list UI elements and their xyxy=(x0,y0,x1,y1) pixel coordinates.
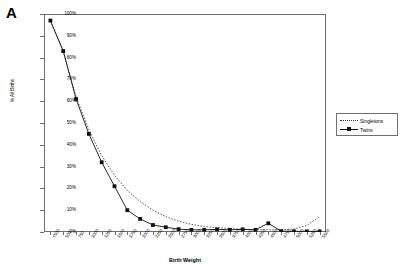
data-point-marker xyxy=(318,229,322,232)
data-point-marker xyxy=(279,229,283,232)
data-point-marker xyxy=(125,208,129,212)
data-point-marker xyxy=(305,229,309,232)
data-point-marker xyxy=(241,227,245,231)
x-axis-title: Birth Weight xyxy=(44,257,326,263)
data-point-marker xyxy=(254,228,258,232)
data-point-marker xyxy=(177,227,181,231)
data-point-marker xyxy=(228,228,232,232)
y-axis-title: % All Births xyxy=(10,51,15,131)
legend-label-singletons: Singletons xyxy=(360,118,383,124)
legend-key-solid-square-icon xyxy=(340,126,358,134)
panel-label: A xyxy=(6,4,17,21)
data-point-marker xyxy=(49,19,53,23)
data-point-marker xyxy=(266,221,270,225)
data-point-marker xyxy=(100,160,104,164)
series-layer xyxy=(44,14,326,232)
data-point-marker xyxy=(113,184,117,188)
data-point-marker xyxy=(190,228,194,232)
legend-item-singletons[interactable]: Singletons xyxy=(340,116,394,125)
data-point-marker xyxy=(138,217,142,221)
y-tick-mark xyxy=(40,232,44,233)
legend-item-twins[interactable]: Twins xyxy=(340,125,394,134)
data-point-marker xyxy=(164,225,168,229)
legend-key-dotted-icon xyxy=(340,117,358,125)
data-point-marker xyxy=(292,229,296,232)
data-point-marker xyxy=(74,97,78,101)
data-point-marker xyxy=(202,228,206,232)
legend-label-twins: Twins xyxy=(360,127,373,133)
data-point-marker xyxy=(215,227,219,231)
chart-legend: Singletons Twins xyxy=(336,113,398,136)
data-point-marker xyxy=(87,132,91,136)
figure-panel-a: A % All Births 0%10%20%30%40%50%60%70%80… xyxy=(0,0,403,270)
series-line-twins xyxy=(50,21,319,232)
data-point-marker xyxy=(61,49,65,53)
data-point-marker xyxy=(151,223,155,227)
series-line-singletons xyxy=(50,22,319,230)
